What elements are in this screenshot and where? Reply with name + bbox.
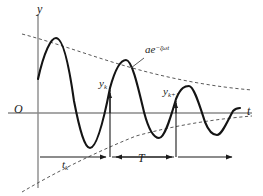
amplitude-k-subscript: k [104, 83, 107, 90]
amplitude-k1-label: yk+1 [163, 86, 179, 98]
envelope-leader-line [131, 58, 144, 68]
figure-canvas [0, 0, 263, 196]
period-label: T [138, 152, 145, 164]
t-axis-label: t [247, 105, 250, 117]
y-axis-label: y [37, 3, 42, 15]
amplitude-k-label: yk [99, 78, 107, 90]
lower-envelope-curve [22, 116, 252, 192]
damped-oscillation-curve [38, 38, 240, 148]
envelope-equation-label: ae−ζωt [145, 44, 169, 55]
envelope-base: ae [145, 43, 155, 55]
origin-label: O [14, 103, 23, 115]
amplitude-k1-subscript: k+1 [168, 91, 179, 98]
time-k-subscript: k [65, 164, 68, 171]
time-k-label: tk [62, 159, 68, 171]
damped-oscillation-figure: y t O ae−ζωt yk yk+1 tk T [0, 0, 263, 196]
envelope-exponent: −ζωt [155, 44, 169, 51]
